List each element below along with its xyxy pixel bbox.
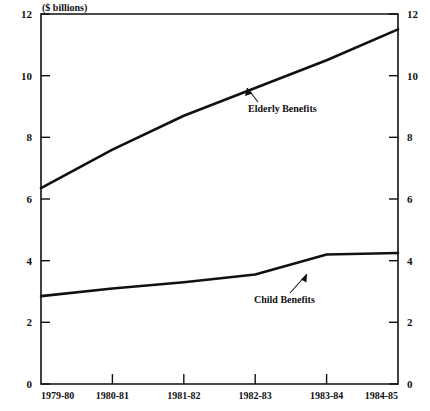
benefits-line-chart: ($ billions) [0, 0, 430, 411]
annotation-elderly-benefits: Elderly Benefits [245, 88, 317, 114]
y-right-tick-4: 4 [407, 255, 413, 267]
y-right-tick-12: 12 [407, 8, 419, 20]
annotation-label-child: Child Benefits [254, 294, 315, 305]
series-line-child-benefits [41, 253, 398, 296]
x-tick-1982-83: 1982-83 [239, 390, 272, 401]
y-right-tick-10: 10 [407, 70, 419, 82]
series-line-elderly-benefits [41, 29, 398, 188]
y-axis-right-ticks [389, 14, 398, 384]
x-tick-1979-80: 1979-80 [41, 390, 74, 401]
annotation-label-elderly: Elderly Benefits [248, 103, 317, 114]
arrow-head-icon [301, 274, 307, 283]
y-right-tick-0: 0 [407, 378, 413, 390]
x-axis-ticks [112, 374, 326, 384]
y-right-tick-8: 8 [407, 131, 413, 143]
annotation-child-benefits: Child Benefits [254, 274, 315, 305]
y-right-tick-6: 6 [407, 193, 413, 205]
y-axis-unit-label: ($ billions) [42, 2, 87, 14]
y-left-tick-4: 4 [27, 255, 33, 267]
y-axis-right-labels: 12 10 8 6 4 2 0 [407, 8, 419, 390]
y-right-tick-2: 2 [407, 316, 413, 328]
chart-container: ($ billions) [0, 0, 430, 411]
plot-frame [41, 14, 398, 384]
y-left-tick-10: 10 [21, 70, 33, 82]
y-axis-left-labels: 12 10 8 6 4 2 0 [21, 8, 33, 390]
y-axis-left-ticks [41, 14, 50, 384]
y-left-tick-2: 2 [27, 316, 33, 328]
x-tick-1983-84: 1983-84 [310, 390, 343, 401]
x-tick-1980-81: 1980-81 [96, 390, 129, 401]
x-tick-1981-82: 1981-82 [167, 390, 200, 401]
x-tick-1984-85: 1984-85 [365, 390, 398, 401]
y-left-tick-6: 6 [27, 193, 33, 205]
x-axis-labels: 1979-80 1980-81 1981-82 1982-83 1983-84 … [41, 390, 398, 401]
y-left-tick-12: 12 [21, 8, 33, 20]
y-left-tick-0: 0 [27, 378, 33, 390]
y-left-tick-8: 8 [27, 131, 33, 143]
